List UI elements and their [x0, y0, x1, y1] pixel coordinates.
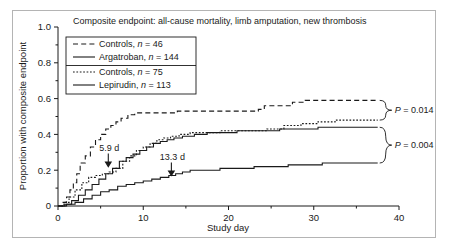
legend-label-1: Argatroban, n = 144: [99, 52, 179, 62]
x-axis-title: Study day: [207, 222, 249, 233]
annotation-arrow-head-1: [169, 171, 175, 176]
y-tick-label: 0.6: [38, 93, 51, 104]
annotation-arrow-head-0: [105, 162, 111, 167]
series-curves: [58, 100, 378, 206]
brace-lower: [380, 127, 392, 163]
x-tick-label: 40: [394, 212, 405, 223]
chart-title: Composite endpoint: all-cause mortality,…: [73, 16, 367, 26]
x-axis-ticks: 010203040: [55, 206, 404, 223]
brace-upper: [380, 100, 392, 120]
chart-legend: Controls, n = 46Argatroban, n = 144Contr…: [66, 37, 196, 94]
annotation-label-median-argatroban: 5.9 d: [99, 143, 119, 153]
figure-panel: Composite endpoint: all-cause mortality,…: [12, 10, 436, 238]
y-tick-label: 0: [46, 200, 51, 211]
legend-label-2: Controls, n = 75: [99, 67, 163, 77]
x-tick-label: 30: [308, 212, 319, 223]
series-curve-1: [58, 127, 378, 206]
y-axis-ticks: 00.20.40.60.81.0: [38, 21, 58, 211]
series-curve-0: [58, 100, 378, 206]
x-tick-label: 0: [55, 212, 60, 223]
p-value-annotations: P = 0.014P = 0.004: [380, 100, 434, 163]
p-value-upper-label: P = 0.014: [395, 105, 434, 115]
y-tick-label: 1.0: [38, 21, 51, 32]
y-axis-title: Proportion with composite endpoint: [17, 41, 28, 190]
x-tick-label: 10: [138, 212, 149, 223]
annotation-label-median-lepirudin: 13.3 d: [160, 152, 185, 162]
y-tick-label: 0.4: [38, 129, 51, 140]
legend-label-0: Controls, n = 46: [99, 39, 163, 49]
y-tick-label: 0.2: [38, 165, 51, 176]
kaplan-meier-chart: Composite endpoint: all-cause mortality,…: [13, 11, 435, 237]
legend-label-3: Lepirudin, n = 113: [99, 80, 171, 90]
p-value-lower-label: P = 0.004: [395, 140, 434, 150]
series-curve-3: [58, 163, 378, 206]
y-tick-label: 0.8: [38, 57, 51, 68]
